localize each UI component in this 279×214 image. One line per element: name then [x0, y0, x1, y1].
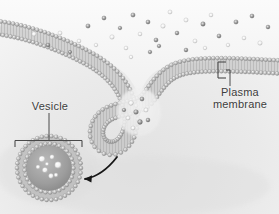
pit-interior	[117, 88, 161, 136]
endocytosis-figure: Vesicle Plasma membrane	[0, 0, 279, 214]
plasma-membrane-label-line1: Plasma	[221, 86, 259, 98]
plasma-membrane-label-line2: membrane	[213, 98, 267, 110]
vesicle-label: Vesicle	[20, 101, 80, 113]
plasma-membrane-label: Plasma membrane	[204, 87, 276, 110]
